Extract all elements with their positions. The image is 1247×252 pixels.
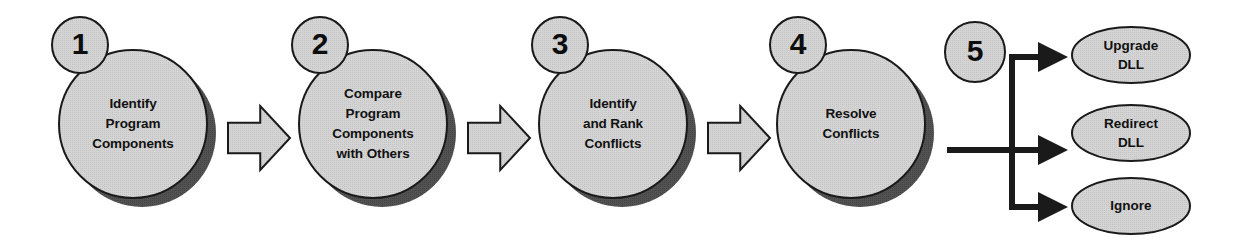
process-steps-group: IdentifyProgramComponents1CompareProgram… [52, 17, 934, 207]
step-badge-5-group: 5 [945, 22, 1005, 82]
outcome-node-3[interactable]: Ignore [1072, 178, 1190, 234]
flow-arrow-3 [708, 106, 770, 170]
diagram-canvas: IdentifyProgramComponents1CompareProgram… [0, 0, 1247, 252]
outcome-node-2[interactable]: RedirectDLL [1072, 105, 1190, 161]
branch-arrowhead-middle [1038, 135, 1068, 165]
step-number-label: 2 [312, 27, 329, 60]
process-flow-diagram: IdentifyProgramComponents1CompareProgram… [0, 0, 1247, 252]
step-number-label: 3 [552, 27, 569, 60]
step-number-label: 1 [72, 27, 89, 60]
branch-arrowhead-bottom [1038, 192, 1068, 222]
outcome-node-1[interactable]: UpgradeDLL [1072, 27, 1190, 83]
process-step-1[interactable]: IdentifyProgramComponents1 [52, 17, 216, 207]
step-number-label: 5 [967, 34, 984, 67]
flow-arrow-2 [468, 106, 530, 170]
outcome-label: Ignore [1110, 198, 1152, 213]
process-step-3[interactable]: Identifyand RankConflicts3 [532, 17, 696, 207]
outcome-nodes-group: UpgradeDLLRedirectDLLIgnore [1072, 27, 1190, 234]
process-step-4[interactable]: ResolveConflicts4 [770, 17, 934, 207]
process-step-2[interactable]: CompareProgramComponentswith Others2 [292, 17, 456, 207]
flow-arrow-1 [228, 106, 290, 170]
outcome-ellipse[interactable] [1072, 105, 1190, 161]
step-number-label: 4 [790, 27, 807, 60]
step-label: Identifyand RankConflicts [583, 96, 644, 151]
branch-arrowhead-top [1038, 42, 1068, 72]
outcome-ellipse[interactable] [1072, 27, 1190, 83]
